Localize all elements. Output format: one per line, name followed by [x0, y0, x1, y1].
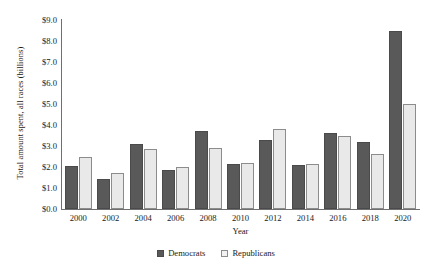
chart-legend: DemocratsRepublicans: [0, 248, 432, 259]
x-axis-tick-label: 2012: [257, 212, 289, 224]
bar-republicans-2012: [273, 129, 286, 209]
y-axis-tick-label: $8.0: [3, 37, 57, 46]
bar-group: [127, 20, 159, 209]
y-axis-tick-label: $1.0: [3, 184, 57, 193]
x-axis-title: Year: [62, 226, 419, 237]
y-axis-tick-label: $0.0: [3, 205, 57, 214]
bar-republicans-2002: [111, 173, 124, 209]
bar-republicans-2006: [176, 167, 189, 209]
bar-republicans-2020: [403, 104, 416, 209]
bar-group: [387, 20, 419, 209]
bar-group: [322, 20, 354, 209]
bar-republicans-2008: [209, 148, 222, 209]
bar-group: [192, 20, 224, 209]
x-axis-tick-label: 2006: [159, 212, 191, 224]
bar-democrats-2008: [195, 131, 208, 209]
legend-swatch-icon: [221, 250, 228, 257]
bar-republicans-2004: [144, 149, 157, 209]
x-axis-tick-label: 2002: [94, 212, 126, 224]
y-axis-tick-labels: $9.0$8.0$7.0$6.0$5.0$4.0$3.0$2.0$1.0$0.0: [0, 20, 57, 209]
bar-groups: [62, 20, 419, 209]
x-axis-tick-label: 2020: [387, 212, 419, 224]
bar-democrats-2020: [389, 31, 402, 210]
y-axis-tick-label: $3.0: [3, 142, 57, 151]
legend-item-democrats: Democrats: [157, 248, 205, 259]
bar-republicans-2016: [338, 136, 351, 210]
bar-democrats-2004: [130, 144, 143, 209]
y-axis-tick-label: $9.0: [3, 16, 57, 25]
bar-democrats-2018: [357, 142, 370, 209]
y-axis-tick-label: $4.0: [3, 121, 57, 130]
x-axis-line: [61, 209, 420, 210]
legend-label: Republicans: [232, 248, 274, 259]
x-axis-tick-label: 2010: [224, 212, 256, 224]
legend-label: Democrats: [168, 248, 205, 259]
x-axis-tick-label: 2000: [62, 212, 94, 224]
bar-republicans-2014: [306, 164, 319, 209]
y-axis-tick-label: $2.0: [3, 163, 57, 172]
bar-democrats-2006: [162, 170, 175, 209]
bar-group: [159, 20, 191, 209]
y-axis-tick-label: $7.0: [3, 58, 57, 67]
x-axis-tick-label: 2018: [354, 212, 386, 224]
bar-group: [94, 20, 126, 209]
x-axis-tick-label: 2008: [192, 212, 224, 224]
bar-republicans-2018: [371, 154, 384, 209]
bar-group: [289, 20, 321, 209]
y-axis-tick-label: $5.0: [3, 100, 57, 109]
bar-group: [354, 20, 386, 209]
bar-democrats-2000: [65, 166, 78, 209]
legend-swatch-icon: [157, 250, 164, 257]
bar-group: [62, 20, 94, 209]
x-axis-tick-label: 2016: [322, 212, 354, 224]
x-axis-tick-label: 2014: [289, 212, 321, 224]
x-axis-tick-label: 2004: [127, 212, 159, 224]
bar-chart: Total amount spent, all races (billions)…: [0, 0, 432, 271]
y-axis-tick-label: $6.0: [3, 79, 57, 88]
bar-republicans-2000: [79, 157, 92, 210]
bar-democrats-2010: [227, 164, 240, 209]
x-axis-tick-labels: 2000200220042006200820102012201420162018…: [62, 212, 419, 224]
bar-democrats-2014: [292, 165, 305, 209]
bar-democrats-2016: [324, 133, 337, 209]
bar-republicans-2010: [241, 163, 254, 209]
bar-democrats-2012: [259, 140, 272, 209]
legend-item-republicans: Republicans: [221, 248, 274, 259]
bar-democrats-2002: [97, 179, 110, 209]
bar-group: [224, 20, 256, 209]
bar-group: [257, 20, 289, 209]
